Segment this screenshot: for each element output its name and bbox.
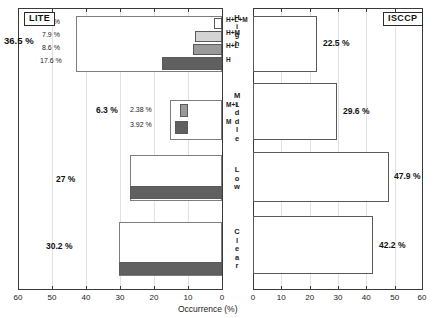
ticklabel-left-40: 40 (76, 293, 96, 302)
key-label-h: H (226, 56, 231, 63)
ticklabel-left-50: 50 (42, 293, 62, 302)
ticklabel-right-60: 60 (412, 293, 432, 302)
ticklabel-left-20: 20 (144, 293, 164, 302)
tick-r-40 (366, 286, 367, 290)
right-axis-line-r (422, 8, 423, 290)
tick-40 (86, 286, 87, 290)
bar-isccp-low (253, 152, 389, 202)
ticklabel-left-0: 0 (212, 293, 232, 302)
tick-r-50 (395, 286, 396, 290)
left-axis-line (18, 8, 19, 290)
group-box-middle (170, 100, 222, 140)
tick-r-10 (281, 286, 282, 290)
cat-high-l4: h (228, 40, 246, 49)
total-isccp-middle: 29.6 % (343, 106, 369, 116)
total-isccp-high: 22.5 % (323, 38, 349, 48)
panel-lite: 2.4 % 7.9 % 8.6 % 17.6 % 36.5 % 2.38 % 3… (18, 8, 223, 290)
cat-low-l3: w (228, 183, 246, 192)
tick-top-r-30 (338, 8, 339, 12)
total-high: 36.5 % (4, 35, 34, 46)
tick-60 (18, 286, 19, 290)
total-clear: 30.2 % (46, 241, 72, 251)
ticklabel-right-40: 40 (356, 293, 376, 302)
category-label-middle: M i d d l e (228, 92, 246, 143)
total-low: 27 % (56, 174, 75, 184)
tick-r-60 (422, 286, 423, 290)
category-label-high: H i g h (228, 14, 246, 48)
bar-isccp-clear (253, 216, 373, 274)
value-high-h-m: 7.9 % (42, 31, 60, 38)
tick-50 (52, 286, 53, 290)
tick-top-10 (188, 8, 189, 12)
category-label-low: L o w (228, 166, 246, 192)
bar-middle-m (175, 121, 188, 134)
ticklabel-right-20: 20 (300, 293, 320, 302)
badge-isccp: ISCCP (383, 12, 423, 26)
tick-20 (154, 286, 155, 290)
cat-clear-l5: r (228, 262, 246, 271)
bar-isccp-high (253, 16, 317, 72)
bar-clear (119, 262, 222, 275)
tick-10 (188, 286, 189, 290)
bar-high-h-m (195, 31, 222, 42)
value-high-h: 17.6 % (40, 57, 62, 64)
tick-top-r-20 (310, 8, 311, 12)
axis-title-occurrence: Occurrence (%) (178, 304, 238, 314)
tick-top-r-40 (366, 8, 367, 12)
badge-lite: LITE (24, 12, 55, 26)
ticklabel-left-60: 60 (8, 293, 28, 302)
tick-top-20 (154, 8, 155, 12)
bar-isccp-middle (253, 83, 337, 140)
panel-isccp: 22.5 % 29.6 % 47.9 % 42.2 % (253, 8, 423, 290)
tick-r-0 (253, 286, 254, 290)
bar-high-h-l-m (214, 18, 222, 29)
tick-top-30 (120, 8, 121, 12)
ticklabel-left-30: 30 (110, 293, 130, 302)
bar-high-h (162, 57, 222, 70)
value-high-h-l: 8.6 % (42, 44, 60, 51)
ticklabel-right-0: 0 (243, 293, 263, 302)
figure-root: 2.4 % 7.9 % 8.6 % 17.6 % 36.5 % 2.38 % 3… (0, 0, 434, 318)
value-middle-m: 3.92 % (130, 121, 152, 128)
tick-30 (120, 286, 121, 290)
tick-top-40 (86, 8, 87, 12)
ticklabel-right-10: 10 (271, 293, 291, 302)
right-axis-line (222, 8, 223, 290)
cat-mid-l6: e (228, 135, 246, 144)
ticklabel-right-50: 50 (385, 293, 405, 302)
total-isccp-low: 47.9 % (394, 171, 420, 181)
total-middle: 6.3 % (96, 105, 118, 115)
bar-middle-m-l (180, 104, 188, 117)
bar-low (130, 186, 222, 199)
category-label-clear: C l e a r (228, 228, 246, 271)
bar-high-h-l (193, 44, 222, 55)
ticklabel-left-10: 10 (178, 293, 198, 302)
tick-r-30 (338, 286, 339, 290)
tick-r-20 (310, 286, 311, 290)
total-isccp-clear: 42.2 % (379, 240, 405, 250)
value-middle-m-l: 2.38 % (130, 106, 152, 113)
ticklabel-right-30: 30 (328, 293, 348, 302)
tick-0 (222, 286, 223, 290)
tick-top-r-10 (281, 8, 282, 12)
